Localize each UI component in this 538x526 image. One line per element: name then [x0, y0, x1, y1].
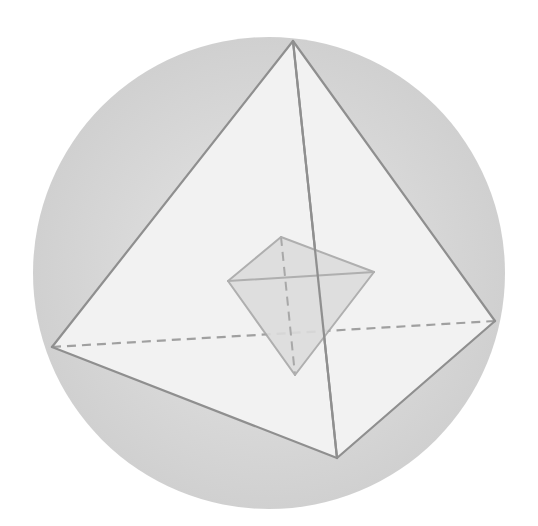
tetrahedron-figure — [0, 0, 538, 526]
diagram-canvas — [0, 0, 538, 526]
